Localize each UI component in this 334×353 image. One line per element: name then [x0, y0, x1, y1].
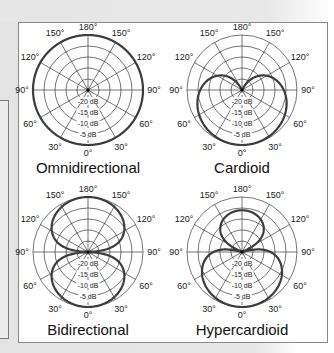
db-ring-label: -15 dB: [78, 109, 99, 116]
db-ring-label: -10 dB: [78, 120, 99, 127]
angle-label: 30°: [48, 142, 62, 152]
angle-label: 150°: [266, 190, 285, 200]
angle-label: 0°: [238, 148, 247, 158]
db-ring-label: -10 dB: [78, 282, 99, 289]
db-ring-label: -15 dB: [78, 271, 99, 278]
angle-label: 150°: [46, 190, 65, 200]
angle-label: 0°: [84, 310, 93, 320]
angle-label: 90°: [301, 85, 315, 95]
angle-label: 90°: [169, 85, 183, 95]
plot-omnidirectional: -20 dB-15 dB-10 dB-5 dB180°150°150°120°1…: [15, 22, 161, 176]
angle-label: 120°: [21, 52, 40, 62]
angle-label: 90°: [301, 247, 315, 257]
grid-spoke: [88, 204, 116, 252]
db-ring-label: -20 dB: [78, 98, 99, 105]
angle-label: 180°: [233, 184, 252, 194]
angle-label: 120°: [21, 214, 40, 224]
angle-label: 90°: [147, 85, 161, 95]
angle-label: 30°: [114, 142, 128, 152]
angle-label: 150°: [112, 190, 131, 200]
angle-label: 120°: [175, 52, 194, 62]
angle-label: 0°: [238, 310, 247, 320]
angle-label: 60°: [23, 119, 37, 129]
angle-label: 120°: [291, 214, 310, 224]
angle-label: 60°: [177, 119, 191, 129]
angle-label: 30°: [48, 304, 62, 314]
plot-cardioid: -20 dB-15 dB-10 dB-5 dB180°150°150°120°1…: [169, 22, 315, 176]
angle-label: 150°: [200, 190, 219, 200]
grid-spoke: [61, 204, 89, 252]
db-ring-label: -10 dB: [232, 282, 253, 289]
angle-label: 150°: [266, 28, 285, 38]
pattern-title: Cardioid: [214, 159, 270, 176]
angle-label: 90°: [15, 247, 29, 257]
db-ring-label: -20 dB: [232, 98, 253, 105]
angle-label: 120°: [137, 52, 156, 62]
angle-label: 0°: [84, 148, 93, 158]
angle-label: 120°: [291, 52, 310, 62]
center-dot: [240, 250, 244, 254]
pattern-title: Hypercardioid: [196, 321, 289, 338]
db-ring-label: -10 dB: [232, 120, 253, 127]
angle-label: 60°: [293, 281, 307, 291]
center-dot: [86, 88, 90, 92]
grid-spoke: [61, 42, 89, 90]
db-ring-label: -5 dB: [234, 293, 251, 300]
db-ring-label: -5 dB: [80, 131, 97, 138]
pattern-title: Bidirectional: [47, 321, 129, 338]
center-dot: [86, 250, 90, 254]
grid-spoke: [40, 63, 88, 91]
angle-label: 30°: [268, 142, 282, 152]
angle-label: 120°: [175, 214, 194, 224]
polar-patterns-figure: -20 dB-15 dB-10 dB-5 dB180°150°150°120°1…: [0, 0, 334, 353]
angle-label: 60°: [293, 119, 307, 129]
angle-label: 30°: [114, 304, 128, 314]
db-ring-label: -20 dB: [232, 260, 253, 267]
angle-label: 60°: [177, 281, 191, 291]
angle-label: 60°: [23, 281, 37, 291]
angle-label: 180°: [233, 22, 252, 32]
plot-bidirectional: -20 dB-15 dB-10 dB-5 dB180°150°150°120°1…: [15, 184, 161, 338]
angle-label: 30°: [202, 142, 216, 152]
angle-label: 180°: [79, 22, 98, 32]
angle-label: 90°: [147, 247, 161, 257]
db-ring-label: -15 dB: [232, 109, 253, 116]
db-ring-label: -5 dB: [80, 293, 97, 300]
angle-label: 60°: [139, 119, 153, 129]
grid-spoke: [88, 63, 136, 91]
pattern-title: Omnidirectional: [36, 159, 140, 176]
db-ring-label: -5 dB: [234, 131, 251, 138]
angle-label: 150°: [112, 28, 131, 38]
angle-label: 30°: [268, 304, 282, 314]
db-ring-label: -20 dB: [78, 260, 99, 267]
db-ring-label: -15 dB: [232, 271, 253, 278]
angle-label: 150°: [200, 28, 219, 38]
angle-label: 60°: [139, 281, 153, 291]
center-dot: [240, 88, 244, 92]
angle-label: 150°: [46, 28, 65, 38]
angle-label: 180°: [79, 184, 98, 194]
plot-hypercardioid: -20 dB-15 dB-10 dB-5 dB180°150°150°120°1…: [169, 184, 315, 338]
angle-label: 30°: [202, 304, 216, 314]
angle-label: 90°: [15, 85, 29, 95]
angle-label: 90°: [169, 247, 183, 257]
angle-label: 120°: [137, 214, 156, 224]
grid-spoke: [88, 42, 116, 90]
